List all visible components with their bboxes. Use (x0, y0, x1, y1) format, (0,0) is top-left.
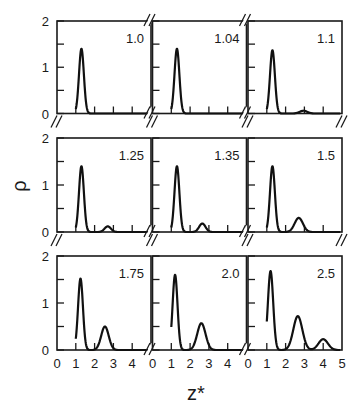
x-tick-label: 0 (53, 356, 60, 371)
y-tick-label: 1 (42, 178, 49, 193)
panel-label: 2.5 (317, 266, 335, 281)
panel-1-1: 1.1 (242, 21, 347, 129)
panel-label: 1.1 (317, 31, 335, 46)
panel-2-0: 2.0 (153, 256, 251, 356)
x-tick-label: 2 (186, 356, 193, 371)
y-tick-label: 1 (42, 296, 49, 311)
density-curve (171, 49, 244, 114)
x-tick-label: 1 (263, 356, 270, 371)
x-tick-label: 0 (149, 356, 156, 371)
panel-grid: 1.01.041.11.251.351.51.752.02.5 (51, 14, 347, 356)
x-tick-label: 4 (320, 356, 327, 371)
density-curve (267, 50, 340, 113)
density-curve (76, 166, 149, 232)
panel-1-04: 1.04 (147, 14, 251, 129)
axis-break-right (336, 116, 347, 129)
x-tick-label: 1 (72, 356, 79, 371)
y-tick-label: 0 (42, 343, 49, 358)
x-tick-label: 2 (282, 356, 289, 371)
x-tick-label: 0 (244, 356, 251, 371)
y-tick-label: 2 (42, 14, 49, 29)
density-curve (267, 271, 340, 350)
panel-label: 1.25 (119, 148, 144, 163)
y-tick-label: 2 (42, 131, 49, 146)
y-tick-label: 1 (42, 60, 49, 75)
axis-break-left (51, 234, 62, 247)
axis-break-left (51, 116, 62, 129)
axis-break-right (336, 234, 347, 247)
panel-label: 1.0 (126, 31, 144, 46)
x-tick-label: 5 (338, 356, 345, 371)
panel-1-0: 1.0 (51, 14, 155, 129)
x-axis-labels: 0123401234012345 (53, 356, 345, 371)
panel-label: 1.35 (214, 148, 239, 163)
x-tick-label: 3 (301, 356, 308, 371)
panel-1-35: 1.35 (147, 138, 251, 247)
panel-1-5: 1.5 (242, 138, 347, 247)
density-profile-figure: 1.01.041.11.251.351.51.752.02.5 01201201… (0, 0, 361, 410)
density-curve (171, 166, 244, 232)
x-tick-label: 1 (168, 356, 175, 371)
density-curve (267, 166, 340, 232)
x-axis-title: z* (187, 382, 205, 404)
panel-2-5: 2.5 (248, 256, 342, 350)
y-axis-title: ρ (8, 180, 30, 191)
density-curve (76, 279, 149, 350)
panel-1-25: 1.25 (51, 138, 155, 247)
panel-label: 2.0 (221, 266, 239, 281)
density-curve (76, 49, 149, 114)
y-tick-label: 0 (42, 107, 49, 122)
panel-label: 1.04 (214, 31, 239, 46)
x-tick-label: 4 (129, 356, 136, 371)
density-curve (171, 275, 244, 350)
x-tick-label: 3 (110, 356, 117, 371)
panel-label: 1.5 (317, 148, 335, 163)
y-tick-label: 0 (42, 225, 49, 240)
x-tick-label: 2 (91, 356, 98, 371)
x-tick-label: 3 (205, 356, 212, 371)
panel-label: 1.75 (119, 266, 144, 281)
panel-1-75: 1.75 (57, 256, 155, 356)
y-axis-labels: 012012012 (42, 14, 49, 358)
y-tick-label: 2 (42, 249, 49, 264)
x-tick-label: 4 (224, 356, 231, 371)
